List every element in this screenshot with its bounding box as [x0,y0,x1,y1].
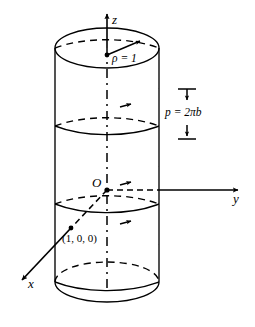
start-point-label: (1, 0, 0) [62,233,97,244]
helix-turn-2-back [55,118,181,166]
helix-arrow-3 [120,221,131,224]
helix-arrow-2 [120,182,131,185]
helix-direction-arrows [120,104,131,224]
z-axis-label: z [112,13,117,26]
helix-turn-1-front [55,88,179,135]
x-axis-hidden-segment [71,190,107,228]
helix-curve [55,40,181,291]
figure-canvas [0,0,255,327]
y-axis-label: y [233,192,239,205]
origin-label: O [92,176,101,189]
helix-cylinder-figure: z y x O (1, 0, 0) ρ = 1 p = 2πb [0,0,255,327]
helix-arrow-1 [120,104,131,107]
radius-label: ρ = 1 [112,53,137,65]
start-point-dot [69,226,74,231]
x-axis-label: x [28,277,34,290]
pitch-label: p = 2πb [165,107,202,119]
origin-point [104,187,109,192]
